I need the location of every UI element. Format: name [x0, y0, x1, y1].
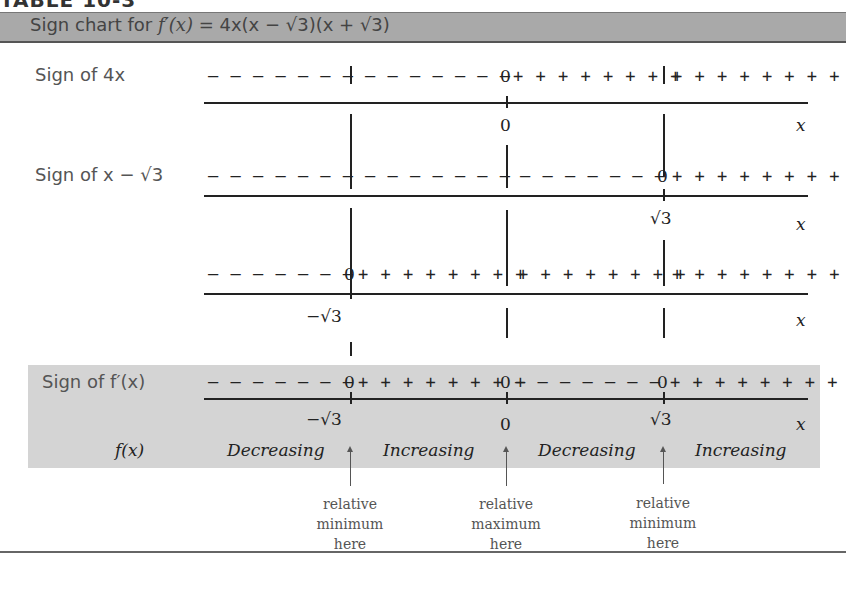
row3-seg2: + + + + + + + +	[358, 264, 527, 284]
behavior-3: Decreasing	[538, 440, 636, 460]
note-line: maximum	[451, 514, 561, 534]
table-header: Sign chart for f′(x) = 4x(x − √3)(x + √3…	[30, 14, 390, 35]
behavior-1: Decreasing	[227, 440, 325, 460]
row2-axis-label: √3	[650, 208, 672, 228]
row3-seg1: – – – – – – –	[208, 264, 354, 284]
row3-axis-label: −√3	[306, 306, 342, 326]
row-label-4x: Sign of 4x	[35, 64, 125, 85]
row3-seg3: + + + + + + + +	[518, 264, 687, 284]
row1-axis-label: 0	[500, 115, 511, 135]
row4-label-neg-root3: −√3	[306, 409, 342, 429]
row4-tick-root3	[663, 392, 665, 404]
note-line: minimum	[295, 514, 405, 534]
note-relative-minimum-2: relative minimum here	[608, 493, 718, 553]
note-line: relative	[295, 494, 405, 514]
note-line: relative	[608, 493, 718, 513]
row2-divider-0	[506, 145, 508, 188]
header-function: f′(x)	[158, 14, 193, 35]
row4-seg3: – – – – – – –	[515, 372, 661, 392]
arrow-shaft-3	[663, 450, 664, 484]
row4-seg1: – – – – – – –	[208, 372, 354, 392]
row4-tick-neg-root3	[350, 392, 352, 404]
fx-label: f(x)	[115, 440, 144, 460]
row2-seg4: + + + + + + + +	[672, 166, 841, 186]
row-label-x-minus-root3: Sign of x − √3	[35, 164, 163, 185]
row2-zero: 0	[657, 166, 668, 186]
table-title: TABLE 10-3	[0, 0, 136, 12]
row1-zero: 0	[500, 66, 511, 86]
bottom-rule	[0, 551, 846, 553]
row2-seg1: – – – – – – –	[208, 166, 354, 186]
row1-seg2: – – – – – – –	[365, 66, 511, 86]
row1-divider-root3	[663, 66, 665, 84]
row2-seg2: – – – – – – –	[365, 166, 511, 186]
row1-axis-var: x	[796, 115, 806, 135]
row4-seg4: + + + + + + + +	[670, 372, 839, 392]
header-equation: = 4x(x − √3)(x + √3)	[193, 14, 390, 35]
row4-zero-neg-root3: 0	[344, 372, 355, 392]
row4-axis-var: x	[796, 414, 806, 434]
note-relative-minimum-1: relative minimum here	[295, 494, 405, 554]
header-prefix: Sign chart for	[30, 14, 158, 35]
note-line: here	[608, 533, 718, 553]
row-label-f-prime: Sign of f′(x)	[42, 371, 145, 392]
row3-seg4: + + + + + + + +	[672, 264, 841, 284]
arrow-shaft-1	[350, 450, 351, 486]
row2-seg3: – – – – – – –	[520, 166, 666, 186]
row3-axis	[204, 293, 808, 295]
arrow-shaft-2	[506, 450, 507, 486]
row1-seg3: + + + + + + + +	[513, 66, 682, 86]
connector3-0	[506, 308, 508, 338]
row4-zero-0: 0	[500, 372, 511, 392]
row1-seg1: – – – – – – –	[208, 66, 354, 86]
row4-label-root3: √3	[650, 409, 672, 429]
behavior-4: Increasing	[695, 440, 787, 460]
row2-axis-var: x	[796, 214, 806, 234]
row4-label-0: 0	[500, 414, 511, 434]
row4-tick-0	[506, 392, 508, 404]
note-relative-maximum: relative maximum here	[451, 494, 561, 554]
row1-divider-neg-root3	[350, 66, 352, 84]
behavior-2: Increasing	[383, 440, 475, 460]
note-line: minimum	[608, 513, 718, 533]
row2-axis	[204, 195, 808, 197]
row3-zero: 0	[344, 264, 355, 284]
row3-tick-neg-root3	[350, 287, 352, 299]
row3-axis-var: x	[796, 310, 806, 330]
row1-tick-0	[506, 96, 508, 108]
note-line: relative	[451, 494, 561, 514]
row1-seg4: + + + + + + + +	[672, 66, 841, 86]
row4-zero-root3: 0	[657, 372, 668, 392]
row2-tick-root3	[663, 189, 665, 201]
connector3-root3	[663, 308, 665, 338]
connector3-neg-root3	[350, 342, 352, 356]
